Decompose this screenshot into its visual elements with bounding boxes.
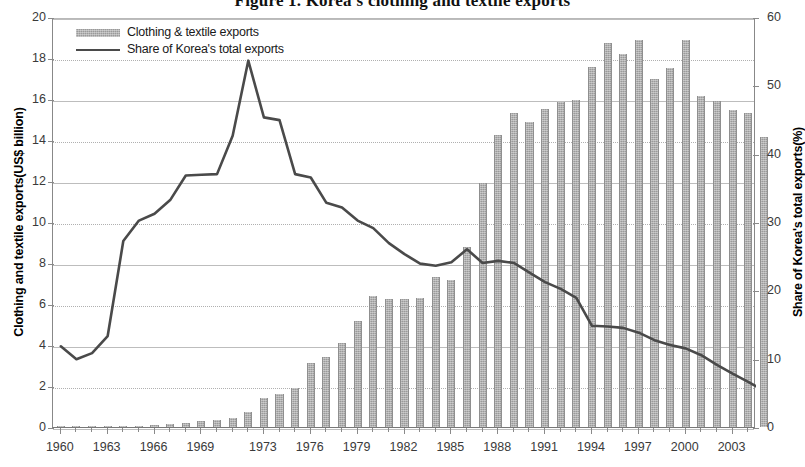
x-axis-tick-mark xyxy=(185,428,186,432)
x-axis-tick-label: 1991 xyxy=(521,440,567,454)
chart-title: Figure 1. Korea's clothing and textile e… xyxy=(0,0,805,11)
y-axis-left-tick-label: 12 xyxy=(6,174,46,188)
x-axis-tick-mark xyxy=(325,428,326,432)
y-axis-left-tick-label: 0 xyxy=(6,420,46,434)
x-axis-tick-label: 1982 xyxy=(381,440,427,454)
x-axis-tick-mark xyxy=(450,428,451,434)
x-axis-tick-mark xyxy=(122,428,123,432)
x-axis-tick-mark xyxy=(341,428,342,432)
x-axis-tick-mark xyxy=(154,428,155,434)
x-axis-tick-mark xyxy=(75,428,76,432)
y-axis-right-tick-mark xyxy=(753,155,759,156)
legend-item-line: Share of Korea's total exports xyxy=(76,41,284,58)
bar-swatch-icon xyxy=(76,29,120,37)
y-axis-right-tick-label: 0 xyxy=(767,420,805,434)
line-series-share-of-total-exports xyxy=(53,19,754,427)
x-axis-tick-mark xyxy=(232,428,233,432)
x-axis-tick-label: 1988 xyxy=(474,440,520,454)
x-axis-tick-mark xyxy=(263,428,264,434)
y-axis-left-tick-label: 2 xyxy=(6,379,46,393)
y-axis-left-tick-mark xyxy=(48,305,54,306)
x-axis-tick-label: 1979 xyxy=(334,440,380,454)
y-axis-left-tick-mark xyxy=(48,141,54,142)
x-axis-tick-mark xyxy=(107,428,108,434)
x-axis-tick-label: 1963 xyxy=(84,440,130,454)
y-axis-right-tick-label: 50 xyxy=(767,78,805,92)
y-axis-right-tick-mark xyxy=(753,291,759,292)
x-axis-tick-mark xyxy=(482,428,483,432)
chart-legend: Clothing & textile exports Share of Kore… xyxy=(76,24,284,58)
x-axis-tick-mark xyxy=(528,428,529,432)
x-axis-tick-mark xyxy=(700,428,701,432)
x-axis-tick-mark xyxy=(575,428,576,432)
x-axis-tick-label: 1994 xyxy=(568,440,614,454)
x-axis-tick-mark xyxy=(544,428,545,434)
y-axis-left-tick-mark xyxy=(48,264,54,265)
x-axis-tick-mark xyxy=(404,428,405,434)
y-axis-left-tick-mark xyxy=(48,223,54,224)
y-axis-left-tick-mark xyxy=(48,346,54,347)
x-axis-tick-mark xyxy=(653,428,654,432)
x-axis-tick-mark xyxy=(638,428,639,434)
x-axis-tick-mark xyxy=(669,428,670,432)
x-axis-tick-label: 1976 xyxy=(287,440,333,454)
y-axis-left-tick-label: 20 xyxy=(6,10,46,24)
legend-label-bars: Clothing & textile exports xyxy=(127,24,259,41)
line-polyline xyxy=(61,61,756,391)
x-axis-tick-mark xyxy=(466,428,467,432)
x-axis-tick-mark xyxy=(435,428,436,432)
y-axis-left-tick-mark xyxy=(48,18,54,19)
y-axis-right-tick-mark xyxy=(753,223,759,224)
line-swatch-icon xyxy=(76,49,120,51)
x-axis-tick-label: 2000 xyxy=(662,440,708,454)
y-axis-left-tick-mark xyxy=(48,182,54,183)
bar xyxy=(760,137,768,427)
y-axis-left-tick-label: 16 xyxy=(6,92,46,106)
x-axis-tick-mark xyxy=(560,428,561,432)
x-axis-tick-mark xyxy=(747,428,748,432)
legend-label-line: Share of Korea's total exports xyxy=(127,41,284,58)
y-axis-left-tick-mark xyxy=(48,59,54,60)
y-axis-left-tick-label: 8 xyxy=(6,256,46,270)
x-axis-tick-mark xyxy=(247,428,248,432)
x-axis-tick-mark xyxy=(685,428,686,434)
y-axis-right-tick-label: 30 xyxy=(767,215,805,229)
x-axis-tick-mark xyxy=(607,428,608,432)
x-axis-tick-mark xyxy=(357,428,358,434)
y-axis-right-tick-label: 20 xyxy=(767,283,805,297)
x-axis-tick-mark xyxy=(310,428,311,434)
x-axis-tick-mark xyxy=(591,428,592,434)
x-axis-tick-mark xyxy=(732,428,733,434)
x-axis-tick-mark xyxy=(622,428,623,432)
x-axis-tick-label: 1997 xyxy=(615,440,661,454)
y-axis-left-tick-label: 10 xyxy=(6,215,46,229)
x-axis-tick-mark xyxy=(294,428,295,432)
y-axis-right-tick-mark xyxy=(753,18,759,19)
y-axis-left-tick-label: 6 xyxy=(6,297,46,311)
chart-figure: Figure 1. Korea's clothing and textile e… xyxy=(0,0,805,467)
x-axis-tick-mark xyxy=(419,428,420,432)
y-axis-left-tick-label: 18 xyxy=(6,51,46,65)
plot-area xyxy=(52,18,755,428)
x-axis-tick-mark xyxy=(216,428,217,432)
y-axis-left-tick-mark xyxy=(48,387,54,388)
x-axis-tick-mark xyxy=(60,428,61,434)
legend-item-bars: Clothing & textile exports xyxy=(76,24,284,41)
y-axis-right-tick-mark xyxy=(753,86,759,87)
x-axis-tick-mark xyxy=(169,428,170,432)
x-axis-tick-mark xyxy=(716,428,717,432)
x-axis-tick-label: 1969 xyxy=(177,440,223,454)
x-axis-tick-mark xyxy=(372,428,373,432)
x-axis-tick-mark xyxy=(497,428,498,434)
x-axis-tick-label: 2003 xyxy=(709,440,755,454)
y-axis-left-tick-mark xyxy=(48,428,54,429)
y-axis-left-tick-mark xyxy=(48,100,54,101)
x-axis-tick-mark xyxy=(388,428,389,432)
x-axis-tick-label: 1960 xyxy=(37,440,83,454)
y-axis-right-tick-mark xyxy=(753,428,759,429)
y-axis-right-tick-label: 10 xyxy=(767,352,805,366)
line-path-share-of-total-exports xyxy=(53,19,756,429)
y-axis-left-tick-label: 4 xyxy=(6,338,46,352)
y-axis-right-tick-label: 60 xyxy=(767,10,805,24)
x-axis-tick-mark xyxy=(138,428,139,432)
